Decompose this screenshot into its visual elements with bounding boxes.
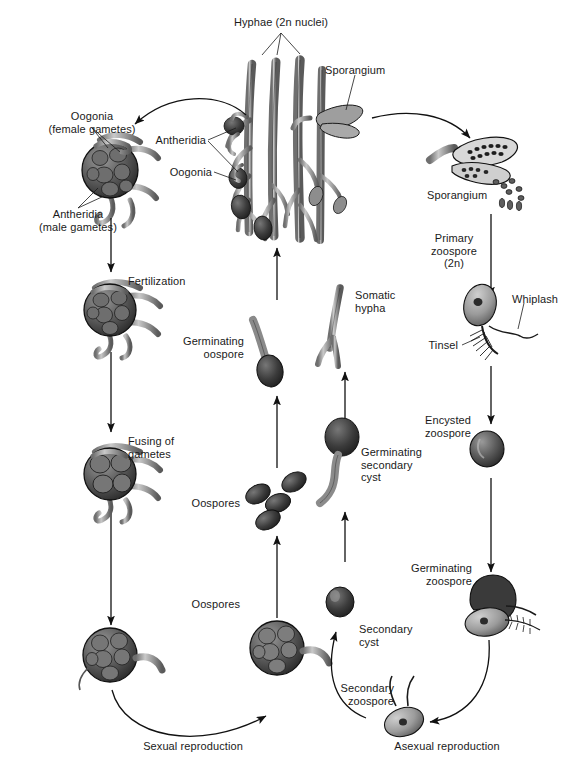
tinsel-flagellum-icon: [470, 326, 498, 360]
label-tinsel: Tinsel: [396, 339, 458, 352]
label-germinating-secondary-cyst: Germinating secondary cyst: [361, 446, 445, 484]
label-primary-zoospore: Primary zoospore (2n): [414, 232, 494, 270]
label-oogonia-center: Oogonia: [140, 166, 212, 179]
label-oospores-upper: Oospores: [168, 497, 240, 510]
oospore-sac-center-icon: [250, 621, 329, 675]
label-antheridia-male-gametes: Antheridia (male gametes): [14, 208, 142, 233]
whiplash-leader-line: [518, 303, 524, 329]
label-germinating-oospore: Germinating oospore: [160, 335, 244, 360]
curved-arrow-to-secondary-zoospore: [430, 640, 489, 722]
sexual-reproduction-arrow: [112, 690, 266, 736]
label-secondary-cyst: Secondary cyst: [359, 623, 439, 648]
label-asexual-reproduction: Asexual reproduction: [376, 740, 518, 753]
label-germinating-zoospore: Germinating zoospore: [388, 562, 472, 587]
label-oospores-lower: Oospores: [168, 598, 240, 611]
oospores-icon: [242, 468, 309, 534]
label-somatic-hypha: Somatic hypha: [355, 289, 425, 314]
label-encysted-zoospore: Encysted zoospore: [425, 414, 501, 439]
oospore-sac-left-icon: [79, 628, 162, 690]
label-fertilization: Fertilization: [128, 275, 218, 288]
label-fusing-of-gametes: Fusing of gametes: [128, 435, 208, 460]
hyphae-icon: [224, 60, 363, 241]
sporangium-icon: [293, 105, 363, 138]
label-oogonia-female-gametes: Oogonia (female gametes): [28, 110, 156, 135]
germinating-secondary-cyst-icon: [320, 418, 359, 503]
germinating-zoospore-icon: [463, 575, 540, 639]
label-sexual-reproduction: Sexual reproduction: [128, 740, 258, 753]
label-secondary-zoospore: Secondary zoospore: [310, 682, 394, 707]
label-hyphae: Hyphae (2n nuclei): [215, 16, 347, 29]
somatic-hypha-icon: [318, 288, 340, 366]
life-cycle-figure: Hyphae (2n nuclei) Sporangium Antheridia…: [0, 0, 578, 773]
secondary-cyst-icon: [326, 587, 354, 617]
label-sporangium-top: Sporangium: [325, 64, 415, 77]
germinating-oospore-icon: [253, 320, 286, 389]
whiplash-flagellum-icon: [489, 326, 538, 338]
tinsel-leader-line: [462, 337, 480, 345]
label-antheridia-center: Antheridia: [118, 134, 206, 147]
label-whiplash: Whiplash: [512, 293, 578, 306]
curved-arrow-to-sporangium: [372, 113, 470, 138]
fertilization-oogonium-icon: [84, 282, 160, 358]
label-sporangium-right: Sporangium: [427, 189, 517, 202]
hyphae-leader-lines: [262, 33, 300, 55]
